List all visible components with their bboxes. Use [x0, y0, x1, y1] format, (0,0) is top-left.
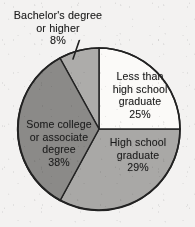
slice-label-bachelor-value: 8%	[2, 34, 114, 47]
slice-label-lessthan-line2: high school	[104, 83, 176, 96]
slice-label-somecollege-line2: or associate	[16, 131, 102, 144]
slice-label-some-college: Some college or associate degree 38%	[16, 118, 102, 168]
slice-label-somecollege-line3: degree	[16, 143, 102, 156]
slice-label-lessthan-value: 25%	[104, 108, 176, 121]
slice-label-high-school-graduate: High school graduate 29%	[100, 136, 176, 174]
slice-label-bachelor-degree: Bachelor's degree or higher 8%	[2, 9, 114, 47]
slice-label-bachelor-line2: or higher	[2, 22, 114, 35]
pie-chart-figure: Bachelor's degree or higher 8% Less than…	[0, 0, 195, 227]
slice-label-somecollege-line1: Some college	[16, 118, 102, 131]
slice-label-hsgrad-line1: High school	[100, 136, 176, 149]
slice-label-hsgrad-line2: graduate	[100, 149, 176, 162]
slice-label-somecollege-value: 38%	[16, 156, 102, 169]
slice-label-lessthan-line3: graduate	[104, 95, 176, 108]
slice-label-bachelor-line1: Bachelor's degree	[2, 9, 114, 22]
slice-label-less-than-high-school: Less than high school graduate 25%	[104, 70, 176, 120]
slice-label-hsgrad-value: 29%	[100, 161, 176, 174]
slice-label-lessthan-line1: Less than	[104, 70, 176, 83]
